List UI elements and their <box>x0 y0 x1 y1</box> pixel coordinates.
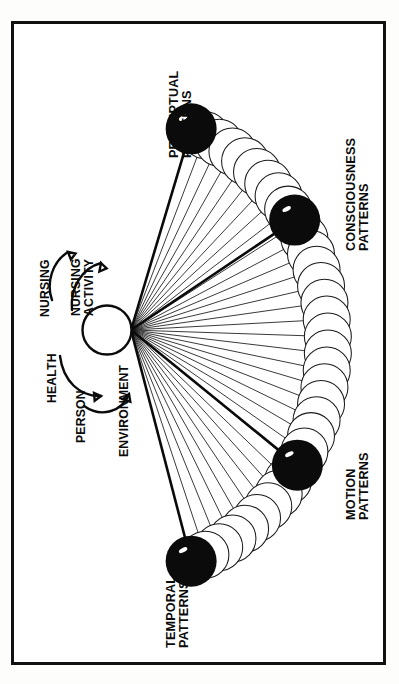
ray-line <box>131 330 311 436</box>
ray-line <box>131 330 205 555</box>
ray-line <box>131 330 232 538</box>
ray-line <box>131 330 324 387</box>
ray-line <box>131 330 245 529</box>
figure-page: PERCEPTUAL PATTERNS CONSCIOUSNESS PATTER… <box>0 0 399 684</box>
ray-line <box>131 135 205 330</box>
nursing-text: NURSING <box>38 259 52 317</box>
label-health: HEALTH <box>45 353 59 403</box>
ray-line <box>131 330 288 480</box>
motion-line2: PATTERNS <box>357 452 371 520</box>
pattern-sphere <box>272 440 323 491</box>
consciousness-line2: PATTERNS <box>357 183 371 251</box>
environment-text: ENVIRONMENT <box>117 364 131 457</box>
nursing-arc <box>50 252 68 300</box>
label-nursing: NURSING <box>38 259 52 317</box>
ray-line <box>131 330 219 547</box>
nursing-activity-line2: ACTIVITY <box>82 259 96 316</box>
label-environment: ENVIRONMENT <box>117 364 131 457</box>
nursing-activity-line1: NURSING <box>69 258 83 316</box>
pattern-sphere <box>269 195 320 246</box>
label-consciousness-patterns: CONSCIOUSNESS PATTERNS <box>344 138 371 251</box>
label-nursing-activity: NURSING ACTIVITY <box>69 258 96 316</box>
nursing-arrowhead <box>68 252 76 260</box>
label-perceptual-patterns: PERCEPTUAL PATTERNS <box>167 71 194 158</box>
perceptual-line2: PATTERNS <box>180 90 194 158</box>
emphasized-ray <box>131 330 191 561</box>
person-text: PERSON <box>74 390 88 443</box>
consciousness-line1: CONSCIOUSNESS <box>344 138 358 251</box>
label-motion-patterns: MOTION PATTERNS <box>344 452 371 520</box>
health-arc <box>60 356 101 396</box>
emphasized-ray <box>131 220 295 330</box>
temporal-line1: TEMPORAL <box>164 576 178 648</box>
ray-line <box>131 196 279 330</box>
emphasized-ray <box>131 330 297 465</box>
label-person: PERSON <box>74 390 88 443</box>
health-text: HEALTH <box>45 353 59 403</box>
temporal-line2: PATTERNS <box>177 580 191 648</box>
ray-line <box>131 161 245 330</box>
ray-line <box>131 303 324 330</box>
ray-line <box>131 320 327 330</box>
motion-line1: MOTION <box>344 468 358 520</box>
label-temporal-patterns: TEMPORAL PATTERNS <box>164 576 191 648</box>
ray-line <box>131 330 257 518</box>
perceptual-line1: PERCEPTUAL <box>167 71 181 158</box>
ray-line <box>131 254 311 330</box>
emphasized-ray <box>131 129 191 330</box>
diagram-canvas: PERCEPTUAL PATTERNS CONSCIOUSNESS PATTER… <box>0 0 399 684</box>
nursing-activity-arrowhead <box>99 263 106 272</box>
